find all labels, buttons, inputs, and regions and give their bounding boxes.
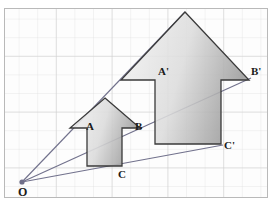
label-C-prime: C': [224, 140, 235, 151]
label-B: B: [135, 121, 142, 132]
label-A: A: [86, 121, 94, 132]
figure-caption: [88, 199, 208, 208]
geometry-figure: [0, 0, 276, 209]
label-B-prime: B': [251, 66, 261, 77]
label-A-prime: A': [158, 66, 169, 77]
label-C: C: [118, 169, 126, 180]
diagram-canvas: A B C A' B' C' O: [0, 0, 276, 209]
label-O: O: [18, 186, 27, 198]
grid-major: [5, 9, 267, 197]
center-point-dot: [19, 179, 24, 184]
